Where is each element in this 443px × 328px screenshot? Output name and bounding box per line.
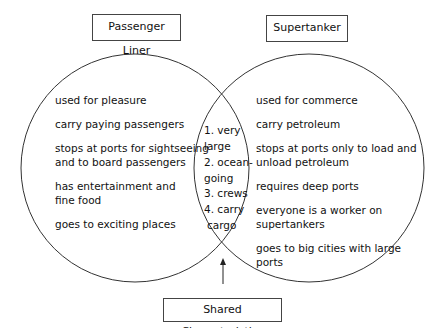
- right-item: supertankers: [256, 218, 325, 231]
- shared-item: 1. very: [204, 124, 241, 137]
- supertanker-label: Supertanker: [266, 15, 348, 42]
- left-item: fine food: [55, 194, 101, 207]
- left-item: stops at ports for sightseeing: [55, 142, 209, 155]
- right-item: stops at ports only to load and: [256, 142, 417, 155]
- shared-characteristics-label: Shared Characteristics: [163, 298, 282, 322]
- shared-item: large: [204, 140, 231, 153]
- left-item: has entertainment and: [55, 180, 176, 193]
- right-item: everyone is a worker on: [256, 204, 382, 217]
- shared-item: 2. ocean-: [204, 156, 253, 169]
- venn-diagram: Passenger Liner Supertanker Shared Chara…: [0, 0, 443, 328]
- right-item: requires deep ports: [256, 180, 359, 193]
- shared-item: 3. crews: [204, 187, 248, 200]
- right-item: carry petroleum: [256, 118, 340, 131]
- shared-item: 4. carry: [204, 203, 244, 216]
- right-item: unload petroleum: [256, 156, 349, 169]
- shared-item: going: [204, 172, 233, 185]
- right-item: used for commerce: [256, 94, 358, 107]
- left-item: goes to exciting places: [55, 218, 176, 231]
- right-item: ports: [256, 256, 283, 269]
- left-item: carry paying passengers: [55, 118, 184, 131]
- passenger-liner-label: Passenger Liner: [92, 14, 181, 41]
- right-item: goes to big cities with large: [256, 242, 401, 255]
- left-item: used for pleasure: [55, 94, 147, 107]
- shared-item: cargo: [207, 219, 236, 232]
- left-item: and to board passengers: [55, 156, 186, 169]
